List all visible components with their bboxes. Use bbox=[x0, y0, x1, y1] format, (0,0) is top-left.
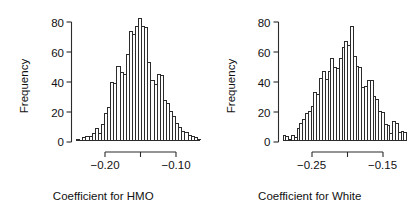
x-axis-label-hmo: Coefficient for HMO bbox=[0, 190, 207, 202]
histogram-bar bbox=[197, 139, 201, 140]
plot-area-hmo bbox=[76, 18, 200, 140]
panel-white: Frequency 80 60 40 20 0 bbox=[207, 0, 413, 220]
x-tick-label: −0.10 bbox=[161, 160, 190, 172]
bars-white bbox=[283, 18, 407, 140]
plot-area-white bbox=[283, 18, 407, 140]
x-tick-label: −0.20 bbox=[90, 160, 119, 172]
panel-hmo: Frequency 80 60 40 20 0 bbox=[0, 0, 207, 220]
histogram-bar bbox=[403, 132, 407, 140]
x-tick-label: −0.25 bbox=[297, 160, 326, 172]
x-axis-label-white: Coefficient for White bbox=[207, 190, 413, 202]
x-tick-labels-white: −0.25 −0.15 bbox=[207, 160, 413, 178]
x-tick-labels-hmo: −0.20 −0.10 bbox=[0, 160, 207, 178]
histogram-figure: Frequency 80 60 40 20 0 bbox=[0, 0, 413, 220]
bars-hmo bbox=[76, 18, 200, 140]
histogram-bar bbox=[76, 139, 80, 140]
x-tick-label: −0.15 bbox=[368, 160, 397, 172]
